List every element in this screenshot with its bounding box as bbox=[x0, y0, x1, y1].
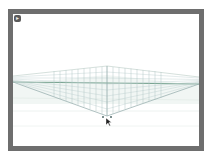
arrow-pointer-icon bbox=[106, 118, 112, 126]
drawing-canvas[interactable] bbox=[13, 14, 199, 146]
viewport-frame: ▸ bbox=[8, 9, 204, 151]
perspective-grid bbox=[13, 14, 199, 146]
transform-handles[interactable] bbox=[102, 116, 112, 118]
play-icon[interactable]: ▸ bbox=[14, 15, 21, 22]
perspective-line bbox=[107, 66, 199, 77]
